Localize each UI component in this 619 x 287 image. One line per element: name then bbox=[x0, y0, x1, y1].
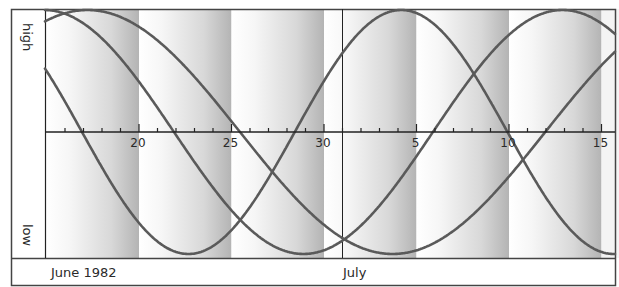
tick-label: 5 bbox=[412, 136, 420, 150]
shaded-band bbox=[47, 9, 140, 258]
shaded-band bbox=[232, 9, 325, 258]
month-label-july: July bbox=[342, 265, 367, 280]
y-label-high: high bbox=[20, 23, 35, 51]
tick-label: 20 bbox=[130, 136, 145, 150]
tick-label: 15 bbox=[593, 136, 608, 150]
tick-label: 30 bbox=[315, 136, 330, 150]
shaded-band bbox=[324, 9, 417, 258]
shaded-band bbox=[602, 9, 619, 258]
biorhythm-chart: 20253051015 high low June 1982 July bbox=[0, 0, 619, 287]
tick-label: 10 bbox=[500, 136, 515, 150]
shaded-band bbox=[139, 9, 232, 258]
y-label-low: low bbox=[20, 224, 35, 247]
month-label-june: June 1982 bbox=[50, 265, 117, 280]
tick-label: 25 bbox=[223, 136, 238, 150]
shaded-band bbox=[509, 9, 602, 258]
